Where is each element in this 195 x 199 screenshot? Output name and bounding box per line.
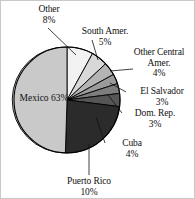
- label-south-amer: South Amer. 5%: [74, 26, 136, 47]
- label-puerto-rico-name: Puerto Rico: [67, 176, 111, 186]
- label-dom-rep-pct: 3%: [126, 119, 184, 130]
- label-puerto-rico: Puerto Rico 10%: [56, 176, 122, 197]
- label-cuba-name: Cuba: [122, 138, 142, 148]
- label-mexico-pct: 63%: [51, 93, 68, 103]
- label-other-central-amer-pct: 4%: [124, 68, 194, 79]
- label-south-amer-name: South Amer.: [82, 26, 128, 36]
- label-el-salvador-name: El Salvador: [140, 86, 184, 96]
- label-mexico-name: Mexico: [20, 93, 49, 103]
- label-other-central-amer: Other Central Amer. 4%: [124, 47, 194, 79]
- label-other-central-amer-line1: Other Central: [134, 47, 185, 57]
- label-south-amer-pct: 5%: [74, 37, 136, 48]
- label-other: Other 8%: [21, 4, 77, 25]
- label-puerto-rico-pct: 10%: [56, 187, 122, 198]
- label-mexico: Mexico 63%: [16, 93, 72, 104]
- label-cuba-pct: 4%: [110, 149, 154, 160]
- pie-chart: Other 8% South Amer. 5% Other Central Am…: [0, 0, 195, 199]
- label-dom-rep-name: Dom. Rep.: [135, 108, 176, 118]
- label-other-central-amer-line2: Amer.: [124, 58, 194, 69]
- label-cuba: Cuba 4%: [110, 138, 154, 159]
- label-el-salvador-pct: 3%: [130, 97, 194, 108]
- label-el-salvador: El Salvador 3%: [130, 86, 194, 107]
- label-other-name: Other: [38, 4, 59, 14]
- label-other-pct: 8%: [21, 15, 77, 26]
- label-dom-rep: Dom. Rep. 3%: [126, 108, 184, 129]
